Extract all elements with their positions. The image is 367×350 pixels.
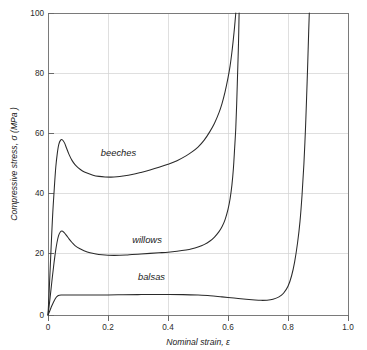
series-label-willows: willows	[132, 234, 162, 245]
plot-background	[48, 13, 348, 315]
stress-strain-chart: 100 80 60 40 20 0 0 0.2 0.4 0.6 0.8 1.0 …	[0, 0, 367, 350]
y-tick-label-20: 20	[35, 249, 45, 258]
x-tick-label-0.8: 0.8	[282, 323, 294, 332]
x-tick-labels: 0 0.2 0.4 0.6 0.8 1.0	[46, 323, 354, 332]
y-tick-label-0: 0	[39, 311, 44, 320]
x-tick-label-0.2: 0.2	[102, 323, 114, 332]
x-axis-title: Nominal strain, ε	[166, 337, 230, 347]
x-tick-marks	[48, 315, 348, 321]
y-axis-title: Compressive stress, σ (MPa )	[9, 107, 19, 221]
x-tick-label-1.0: 1.0	[342, 323, 354, 332]
x-tick-label-0: 0	[46, 323, 51, 332]
chart-figure: 100 80 60 40 20 0 0 0.2 0.4 0.6 0.8 1.0 …	[0, 0, 367, 350]
y-tick-labels: 100 80 60 40 20 0	[30, 9, 44, 320]
y-tick-label-80: 80	[35, 69, 45, 78]
y-tick-label-40: 40	[35, 189, 45, 198]
series-label-balsas: balsas	[138, 271, 165, 282]
series-label-beeches: beeches	[101, 147, 137, 158]
x-tick-label-0.6: 0.6	[222, 323, 234, 332]
y-tick-label-60: 60	[35, 129, 45, 138]
x-tick-label-0.4: 0.4	[162, 323, 174, 332]
y-tick-label-100: 100	[30, 9, 44, 18]
